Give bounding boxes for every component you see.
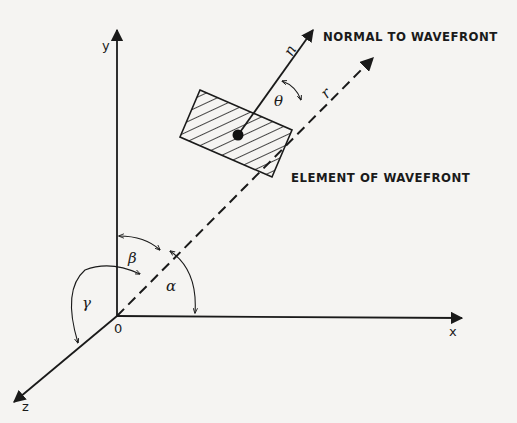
origin-label: 0 [114, 321, 122, 336]
alpha-label: α [166, 277, 176, 295]
z-axis [14, 316, 117, 402]
beta-arc [119, 236, 160, 250]
x-axis [117, 316, 462, 318]
gamma-label: γ [82, 294, 91, 312]
normal-annotation: NORMAL TO WAVEFRONT [323, 29, 498, 44]
x-axis-label: x [449, 324, 457, 339]
diagram-canvas: y x z 0 n r θ β α γ NORMAL TO WAVEFRONT … [0, 0, 517, 423]
r-vector [117, 58, 373, 316]
wavefront-diagram: y x z 0 n r θ β α γ NORMAL TO WAVEFRONT … [0, 0, 517, 423]
theta-label: θ [274, 92, 283, 110]
theta-arc [282, 81, 301, 100]
element-annotation: ELEMENT OF WAVEFRONT [291, 170, 470, 185]
normal-n-label: n [280, 42, 300, 59]
y-axis-label: y [102, 38, 110, 53]
z-axis-label: z [22, 399, 29, 414]
normal-vector [238, 30, 313, 135]
center-point [233, 130, 244, 141]
beta-label: β [127, 249, 137, 267]
